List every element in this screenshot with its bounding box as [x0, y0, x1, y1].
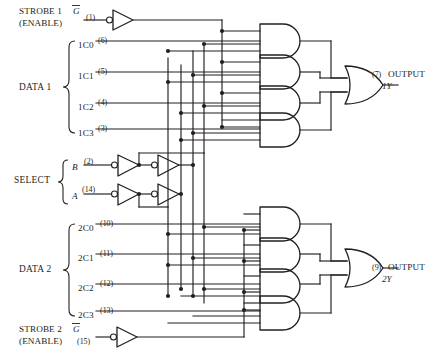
data2-input-3-name: 2C3: [78, 310, 94, 320]
junction-a-and3: [179, 111, 183, 115]
and-gate-2c2-body: [260, 269, 300, 303]
junction-and3-strobe: [220, 91, 224, 95]
select-input-a-pin: (14): [82, 185, 96, 194]
data1-wires: [96, 41, 260, 129]
junction-and8-a: [166, 294, 170, 298]
data2-input-2: 2C2 (12): [78, 279, 114, 293]
data1-input-1: 1C1 (5): [78, 67, 108, 81]
select-a-inv1-bubble: [112, 191, 118, 197]
data1-input-2-name: 1C2: [78, 102, 94, 112]
strobe1-label-group: STROBE 1 G (ENABLE) (1): [19, 6, 96, 29]
data1-input-1-name: 1C1: [78, 71, 94, 81]
or-gate-1y: [320, 41, 398, 130]
output-1y-label: OUTPUT: [388, 69, 425, 79]
data1-group-label: DATA 1: [19, 82, 52, 92]
strobe1-signal: G: [73, 6, 80, 16]
strobe2-signal: G: [73, 324, 80, 334]
junction-notb-and7: [202, 287, 206, 291]
strobe2-pin: (15): [77, 337, 91, 346]
strobe2-inverter-triangle: [117, 327, 137, 347]
junction-and4-b: [191, 131, 195, 135]
data2-input-0: 2C0 (10): [78, 219, 114, 233]
select-input-a: A (14): [71, 185, 96, 201]
or-gate-2y: [320, 224, 398, 313]
junction-and2-strobe: [220, 60, 224, 64]
and-gate-1c3-body: [260, 113, 300, 147]
data2-input-1-name: 2C1: [78, 253, 94, 263]
junction-and8-b: [191, 294, 195, 298]
strobe1-line2: (ENABLE): [19, 18, 62, 28]
and-gate-1c3: [179, 113, 331, 147]
junction-notb-and5: [202, 225, 206, 229]
junction-notb-and1: [202, 42, 206, 46]
junction-b-and6: [191, 256, 195, 260]
select-group-label: SELECT: [14, 175, 50, 185]
data1-input-3-name: 1C3: [78, 128, 94, 138]
select-a-inverters: [84, 58, 183, 296]
junction-and4-a: [179, 138, 183, 142]
junction-and1-strobe: [220, 29, 224, 33]
select-b-inv2-bubble: [152, 162, 158, 168]
schematic-svg: STROBE 1 G (ENABLE) (1) DATA 1 1C0 (6) 1…: [0, 0, 437, 357]
strobe2-label-group: STROBE 2 G (ENABLE) (15): [19, 324, 91, 347]
select-input-a-name: A: [71, 191, 78, 201]
data2-input-3: 2C3 (13): [78, 306, 114, 320]
logic-diagram-canvas: STROBE 1 G (ENABLE) (1) DATA 1 1C0 (6) 1…: [0, 0, 437, 357]
strobe2-line2: (ENABLE): [19, 336, 62, 346]
junction-nota-and6: [166, 263, 170, 267]
select-input-b-name: B: [72, 162, 78, 172]
junction-nota-and1: [166, 49, 170, 53]
strobe1-pin: (1): [86, 13, 96, 22]
data1-input-2: 1C2 (4): [78, 98, 108, 112]
and-gate-2c2: [179, 269, 320, 303]
and-gate-1c2-body: [260, 86, 300, 120]
select-b-inv1-bubble: [112, 162, 118, 168]
and-gate-2c3-body: [260, 296, 300, 330]
junction-and7-a: [179, 287, 183, 291]
select-a-inv2-bubble: [152, 191, 158, 197]
strobe2-line1: STROBE 2: [19, 324, 62, 334]
junction-and3-notb: [202, 104, 206, 108]
strobe2-inverter-bubble: [111, 334, 117, 340]
data2-wires: [96, 224, 260, 311]
strobe1-inverter-bubble: [107, 17, 113, 23]
output-1y-signal: 1Y: [382, 81, 393, 91]
and-gate-2c0-body: [260, 207, 300, 241]
select-brace: [58, 160, 68, 204]
data2-group-label: DATA 2: [19, 264, 52, 274]
data1-brace: [63, 41, 75, 133]
junction-and2-nota: [166, 80, 170, 84]
and-gate-2c3: [166, 294, 331, 330]
data1-input-0: 1C0 (6): [78, 36, 108, 50]
and-gate-1c0-body: [260, 24, 300, 58]
data2-input-2-name: 2C2: [78, 283, 94, 293]
select-a-inv1-triangle: [118, 184, 139, 205]
junction-b-and2: [191, 73, 195, 77]
strobe1-line1: STROBE 1: [19, 6, 62, 16]
and-gate-1c1-body: [260, 55, 300, 89]
output-2y-signal: 2Y: [382, 274, 393, 284]
data1-input-3: 1C3 (3): [78, 124, 108, 138]
junction-nota-and5: [166, 232, 170, 236]
output-2y-label: OUTPUT: [388, 262, 425, 272]
data2-input-0-name: 2C0: [78, 223, 94, 233]
strobe1-inverter-triangle: [113, 10, 133, 30]
select-b-inverters: [84, 44, 204, 303]
data1-input-0-name: 1C0: [78, 40, 94, 50]
and-gate-2c1-body: [260, 238, 300, 272]
data2-input-1: 2C1 (11): [78, 249, 113, 263]
select-b-inv1-triangle: [118, 155, 139, 176]
data2-brace: [63, 224, 75, 316]
